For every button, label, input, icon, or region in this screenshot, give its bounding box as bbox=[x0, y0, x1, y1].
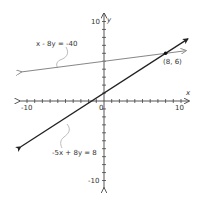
line-x-minus-8y-eq-neg40 bbox=[21, 51, 186, 72]
intersection-point bbox=[164, 52, 168, 56]
x-tick-label-max: 10 bbox=[175, 104, 184, 112]
x-tick-label-zero: 0 bbox=[99, 104, 103, 112]
line2-callout-curve bbox=[61, 124, 70, 148]
intersection-label: (8, 6) bbox=[163, 58, 182, 66]
y-tick-label-max: 10 bbox=[91, 18, 100, 26]
x-tick-label-min: -10 bbox=[21, 104, 32, 112]
y-axis-label: y bbox=[106, 16, 112, 24]
line1-callout-curve bbox=[57, 47, 68, 68]
line2-equation-label: -5x + 8y = 8 bbox=[52, 149, 97, 157]
coordinate-plane: x y -10 0 10 10 -10 x - 8y = -40 -5x + 8… bbox=[0, 0, 197, 199]
x-axis-label: x bbox=[185, 89, 191, 97]
y-tick-label-min: -10 bbox=[88, 177, 99, 185]
line1-equation-label: x - 8y = -40 bbox=[36, 40, 77, 48]
